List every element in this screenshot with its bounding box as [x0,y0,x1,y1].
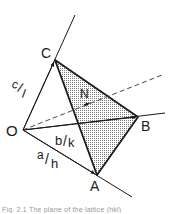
label-o: O [6,122,18,139]
svg-text:a: a [37,148,44,162]
svg-text:/: / [63,133,67,149]
label-a-over-h: a / h [37,148,58,171]
label-b: B [141,118,150,134]
svg-text:b: b [55,133,62,148]
label-a: A [90,178,100,194]
svg-text:h: h [51,156,58,171]
svg-text:k: k [68,135,75,150]
lattice-plane-diagram: O C B A N c / l b / k a / h [0,0,180,214]
label-c-over-l: c / l [8,77,30,101]
svg-text:/: / [45,151,49,167]
label-n: N [80,87,89,101]
figure-caption: Fig. 2.1 The plane of the lattice (hkl) [2,206,178,213]
label-b-over-k: b / k [55,133,75,150]
label-c: C [41,45,51,61]
